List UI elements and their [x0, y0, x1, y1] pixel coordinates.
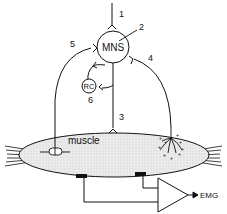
label-2: 2 — [139, 22, 144, 32]
muscle-label: muscle — [68, 135, 100, 146]
svg-text:+: + — [181, 146, 184, 152]
svg-text:+: + — [179, 139, 182, 145]
afferent-pathway-4 — [129, 56, 171, 128]
svg-text:+: + — [176, 132, 179, 138]
mns-label: MNS — [102, 42, 125, 53]
svg-text:+: + — [163, 152, 166, 158]
label-6: 6 — [88, 95, 93, 105]
svg-text:+: + — [170, 155, 173, 161]
rc-label: RC — [84, 82, 95, 91]
emg-label: EMG — [200, 191, 218, 200]
label-1: 1 — [119, 9, 124, 19]
input-pathway-1 — [108, 3, 116, 29]
electrode-left — [76, 174, 87, 178]
label-5: 5 — [70, 39, 75, 49]
svg-text:+: + — [158, 144, 161, 150]
label-4: 4 — [148, 53, 153, 63]
label-3: 3 — [119, 112, 124, 122]
amplifier — [158, 178, 188, 212]
svg-text:+: + — [159, 135, 162, 141]
electrode-wires — [84, 176, 158, 202]
electrode-right — [135, 172, 146, 176]
motor-control-diagram: muscle +++ +++ +++ 1 MNS 2 5 4 — [0, 0, 227, 214]
emg-output-arrow — [188, 192, 198, 198]
svg-text:+: + — [164, 139, 167, 145]
efferent-pathway-3 — [109, 63, 117, 133]
